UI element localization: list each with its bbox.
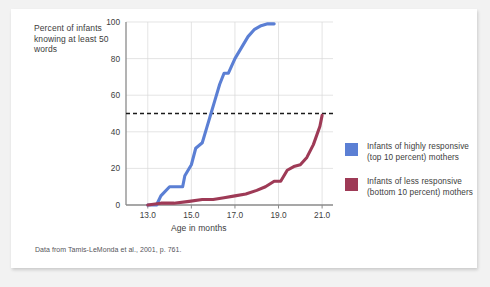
source-citation: Data from Tamis-LeMonda et al., 2001, p.…	[35, 246, 181, 253]
figure-card: Percent of infants knowing at least 50 w…	[11, 9, 477, 268]
svg-text:0: 0	[115, 200, 120, 210]
svg-text:80: 80	[111, 54, 121, 64]
legend-item-label: Infants of highly responsive (top 10 per…	[367, 142, 473, 163]
svg-text:21.0: 21.0	[314, 210, 331, 220]
x-axis-title: Age in months	[171, 223, 227, 233]
svg-text:15.0: 15.0	[183, 210, 200, 220]
legend-item: Infants of less responsive (bottom 10 pe…	[345, 177, 473, 198]
chart-legend: Infants of highly responsive (top 10 per…	[345, 142, 473, 212]
svg-text:20: 20	[111, 163, 121, 173]
svg-text:19.0: 19.0	[270, 210, 287, 220]
legend-swatch-icon	[345, 178, 358, 191]
svg-text:17.0: 17.0	[227, 210, 244, 220]
svg-text:40: 40	[111, 127, 121, 137]
svg-text:100: 100	[106, 17, 120, 27]
legend-item-label: Infants of less responsive (bottom 10 pe…	[367, 177, 473, 198]
line-chart: 02040608010013.015.017.019.021.0	[11, 9, 477, 268]
legend-swatch-icon	[345, 143, 358, 156]
legend-item: Infants of highly responsive (top 10 per…	[345, 142, 473, 163]
svg-text:60: 60	[111, 90, 121, 100]
svg-text:13.0: 13.0	[140, 210, 157, 220]
